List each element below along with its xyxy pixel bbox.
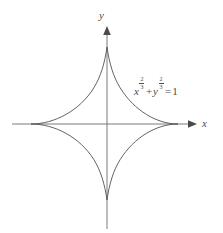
astroid-figure: y x x23+y23=1 xyxy=(0,0,223,233)
equation-annotation: x23+y23=1 xyxy=(134,77,178,97)
astroid-curve xyxy=(31,47,178,200)
equation-x-exponent: 23 xyxy=(139,76,144,90)
x-axis-arrowhead xyxy=(188,120,197,128)
equation-y-exponent: 23 xyxy=(159,76,164,90)
y-axis-arrowhead xyxy=(103,26,111,35)
equation-plus-sign: + xyxy=(145,85,153,97)
equation-y-variable: y xyxy=(153,85,158,97)
equation-right-hand-side: 1 xyxy=(172,85,178,97)
equation-x-variable: x xyxy=(134,85,139,97)
y-axis-label: y xyxy=(99,10,104,21)
x-axis-label: x xyxy=(202,118,207,129)
figure-canvas xyxy=(0,0,223,233)
equation-equals-sign: = xyxy=(164,85,172,97)
